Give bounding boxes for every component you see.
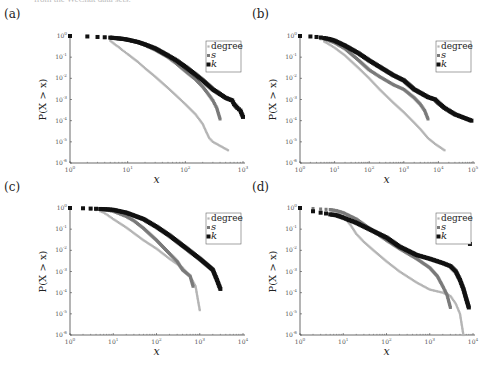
y-tick-label: 10-4 <box>285 116 297 124</box>
legend-label-k: k <box>211 58 217 69</box>
legend-marker-k <box>207 235 211 239</box>
y-tick-label: 10-5 <box>285 309 297 317</box>
panel-a-chart: (a)10010110210310010-110-210-310-410-510… <box>4 7 248 186</box>
x-tick-label: 100 <box>295 337 306 345</box>
x-axis-label: x <box>153 345 160 358</box>
legend-marker-s <box>437 54 440 57</box>
y-tick-label: 10-1 <box>55 52 67 60</box>
legend: degreesk <box>436 213 473 244</box>
legend-marker-degree <box>207 217 209 219</box>
y-tick-label: 10-4 <box>55 288 67 296</box>
y-tick-label: 100 <box>57 203 68 211</box>
y-tick-label: 100 <box>57 31 68 39</box>
panel-label: (b) <box>252 7 269 21</box>
y-axis-label: P(X > x) <box>37 250 48 292</box>
series-k <box>68 206 222 291</box>
y-tick-label: 10-6 <box>285 158 297 166</box>
y-tick-label: 10-1 <box>285 52 297 60</box>
legend-marker-degree <box>437 45 439 47</box>
y-tick-label: 10-3 <box>285 267 297 275</box>
legend-marker-s <box>437 226 440 229</box>
y-tick-label: 10-2 <box>285 245 297 253</box>
y-tick-label: 10-3 <box>55 267 67 275</box>
y-axis-label: P(X > x) <box>267 78 278 120</box>
y-tick-label: 10-5 <box>55 309 67 317</box>
legend: degreesk <box>206 213 243 244</box>
x-axis-label: x <box>153 173 160 186</box>
panel-c-chart: (c)10010110210310410010-110-210-310-410-… <box>4 180 248 358</box>
legend-label-k: k <box>211 230 217 241</box>
y-tick-label: 10-5 <box>55 137 67 145</box>
x-tick-label: 103 <box>425 337 436 345</box>
x-tick-label: 102 <box>151 337 162 345</box>
figure-canvas: (a)10010110210310010-110-210-310-410-510… <box>0 0 494 366</box>
x-tick-label: 105 <box>468 165 479 173</box>
x-tick-label: 102 <box>180 165 191 173</box>
panel-d-chart: (d)10010110210310410010-110-210-310-410-… <box>252 180 478 358</box>
panel-label: (d) <box>252 180 269 194</box>
x-tick-label: 103 <box>195 337 206 345</box>
series-s <box>299 35 430 121</box>
x-tick-label: 104 <box>468 337 479 345</box>
y-tick-label: 100 <box>287 203 298 211</box>
y-tick-label: 10-6 <box>55 158 67 166</box>
legend-marker-s <box>207 54 210 57</box>
x-tick-label: 100 <box>65 165 76 173</box>
legend-marker-degree <box>437 217 439 219</box>
x-tick-label: 104 <box>433 165 444 173</box>
legend-label-k: k <box>441 230 447 241</box>
x-tick-label: 102 <box>364 165 375 173</box>
legend: degreesk <box>206 41 243 72</box>
y-tick-label: 10-3 <box>55 95 67 103</box>
x-tick-label: 103 <box>399 165 410 173</box>
y-tick-label: 10-2 <box>55 73 67 81</box>
y-tick-label: 100 <box>287 31 298 39</box>
series-s <box>69 207 195 288</box>
x-axis-label: x <box>383 173 390 186</box>
x-tick-label: 100 <box>295 165 306 173</box>
y-tick-label: 10-4 <box>55 116 67 124</box>
y-tick-label: 10-5 <box>285 137 297 145</box>
y-axis-label: P(X > x) <box>37 78 48 120</box>
y-tick-label: 10-2 <box>55 245 67 253</box>
x-tick-label: 101 <box>123 165 134 173</box>
x-tick-label: 102 <box>381 337 392 345</box>
legend-marker-k <box>437 235 441 239</box>
x-tick-label: 101 <box>108 337 119 345</box>
y-axis-label: P(X > x) <box>267 250 278 292</box>
y-tick-label: 10-3 <box>285 95 297 103</box>
x-tick-label: 101 <box>329 165 340 173</box>
legend-marker-k <box>207 63 211 67</box>
panel-label: (a) <box>4 7 21 21</box>
y-tick-label: 10-1 <box>55 224 67 232</box>
y-tick-label: 10-4 <box>285 288 297 296</box>
y-tick-label: 10-6 <box>55 330 67 338</box>
x-tick-label: 103 <box>238 165 249 173</box>
legend-marker-k <box>437 63 441 67</box>
legend-label-k: k <box>441 58 447 69</box>
legend-marker-degree <box>207 45 209 47</box>
x-tick-label: 100 <box>65 337 76 345</box>
y-tick-label: 10-2 <box>285 73 297 81</box>
x-tick-label: 104 <box>238 337 249 345</box>
panel-label: (c) <box>4 180 20 194</box>
legend: degreesk <box>436 41 473 72</box>
panel-b-chart: (b)10010110210310410510010-110-210-310-4… <box>252 7 478 186</box>
y-tick-label: 10-6 <box>285 330 297 338</box>
legend-marker-s <box>207 226 210 229</box>
x-tick-label: 101 <box>338 337 349 345</box>
x-axis-label: x <box>383 345 390 358</box>
y-tick-label: 10-1 <box>285 224 297 232</box>
